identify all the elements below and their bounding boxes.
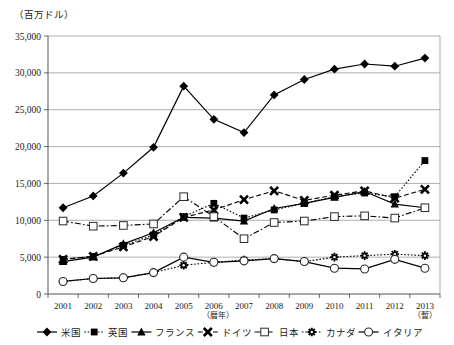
- data-point: [240, 235, 248, 243]
- legend-label: 米国: [61, 327, 81, 338]
- data-point: [301, 217, 309, 225]
- legend-label: カナダ: [326, 327, 356, 338]
- data-point: [363, 254, 365, 256]
- series-1: [60, 157, 429, 263]
- chart-canvas: （百万ドル）05,00010,00015,00020,00025,00030,0…: [0, 0, 454, 345]
- data-point: [182, 264, 184, 266]
- legend-item-5[interactable]: カナダ: [302, 327, 356, 338]
- y-tick-label: 20,000: [15, 142, 41, 152]
- data-point: [361, 265, 369, 273]
- data-point: [270, 219, 278, 227]
- y-tick-label: 0: [36, 290, 41, 300]
- data-point: [270, 187, 278, 195]
- series-5: [59, 250, 429, 286]
- data-point: [119, 274, 127, 282]
- legend-item-2[interactable]: フランス: [131, 327, 195, 337]
- legend-marker: [261, 328, 269, 336]
- series-line: [63, 192, 425, 262]
- x-tick-label: 2003: [114, 301, 133, 311]
- legend-marker: [365, 328, 373, 336]
- data-point: [180, 193, 188, 201]
- x-tick-label: 2013: [416, 301, 435, 311]
- x-tick-label: 2004: [145, 301, 164, 311]
- data-point: [421, 54, 430, 63]
- y-axis-unit-label: （百万ドル）: [14, 9, 74, 20]
- data-point: [300, 258, 308, 266]
- x-tick-label: 2008: [265, 301, 284, 311]
- data-point: [120, 222, 128, 230]
- x-tick-label: 2005: [175, 301, 194, 311]
- data-point: [421, 264, 429, 272]
- data-point: [270, 255, 278, 263]
- data-point: [390, 62, 399, 71]
- data-point: [333, 256, 335, 258]
- legend-item-4[interactable]: 日本: [255, 327, 299, 338]
- data-point: [210, 213, 218, 221]
- data-point: [210, 200, 217, 207]
- x-tick-label: 2001: [54, 301, 72, 311]
- x-tick-label: 2010: [325, 301, 344, 311]
- legend-label: イタリア: [383, 328, 423, 338]
- legend-item-0[interactable]: 米国: [37, 327, 81, 338]
- legend-label: ドイツ: [222, 328, 252, 338]
- data-point: [391, 255, 399, 263]
- x-tick-label: 2002: [84, 301, 102, 311]
- legend-item-6[interactable]: イタリア: [359, 328, 423, 338]
- data-point: [59, 203, 68, 212]
- series-6: [59, 253, 429, 285]
- data-point: [59, 217, 67, 225]
- data-point: [150, 220, 158, 228]
- data-point: [421, 185, 429, 193]
- data-point: [330, 65, 339, 74]
- y-tick-label: 10,000: [15, 216, 41, 226]
- legend-label: フランス: [155, 328, 195, 338]
- data-point: [424, 254, 426, 256]
- data-point: [180, 253, 188, 261]
- legend-label: 日本: [279, 327, 299, 338]
- data-point: [150, 269, 158, 277]
- y-tick-label: 35,000: [15, 32, 41, 42]
- legend-marker: [91, 329, 98, 336]
- legend-marker: [204, 328, 212, 336]
- y-tick-label: 30,000: [15, 68, 41, 78]
- data-point: [421, 204, 429, 212]
- series-line: [63, 161, 425, 260]
- line-chart: （百万ドル）05,00010,00015,00020,00025,00030,0…: [0, 0, 454, 345]
- data-point: [210, 258, 218, 266]
- y-tick-label: 25,000: [15, 105, 41, 115]
- x-tick-label: 2009: [295, 301, 314, 311]
- data-point: [360, 60, 369, 69]
- legend-item-1[interactable]: 英国: [84, 327, 128, 338]
- series-0: [59, 54, 430, 212]
- legend-marker: [311, 331, 313, 333]
- x-axis-provisional-note: （暫）: [413, 310, 437, 320]
- data-point: [59, 277, 67, 285]
- x-axis-label: （暦年）: [202, 310, 234, 320]
- x-tick-label: 2011: [356, 301, 374, 311]
- y-tick-label: 15,000: [15, 179, 41, 189]
- data-point: [240, 257, 248, 265]
- legend-label: 英国: [108, 327, 128, 338]
- legend-item-3[interactable]: ドイツ: [198, 328, 252, 338]
- x-tick-label: 2007: [235, 301, 254, 311]
- data-point: [330, 264, 338, 272]
- data-point: [89, 222, 97, 230]
- data-point: [300, 75, 309, 84]
- data-point: [331, 213, 339, 221]
- data-point: [89, 275, 97, 283]
- legend-marker: [43, 328, 52, 337]
- x-tick-label: 2006: [205, 301, 224, 311]
- data-point: [391, 214, 399, 222]
- y-tick-label: 5,000: [20, 253, 42, 263]
- x-tick-label: 2012: [386, 301, 404, 311]
- data-point: [361, 212, 369, 220]
- data-point: [422, 157, 429, 164]
- data-point: [240, 196, 248, 204]
